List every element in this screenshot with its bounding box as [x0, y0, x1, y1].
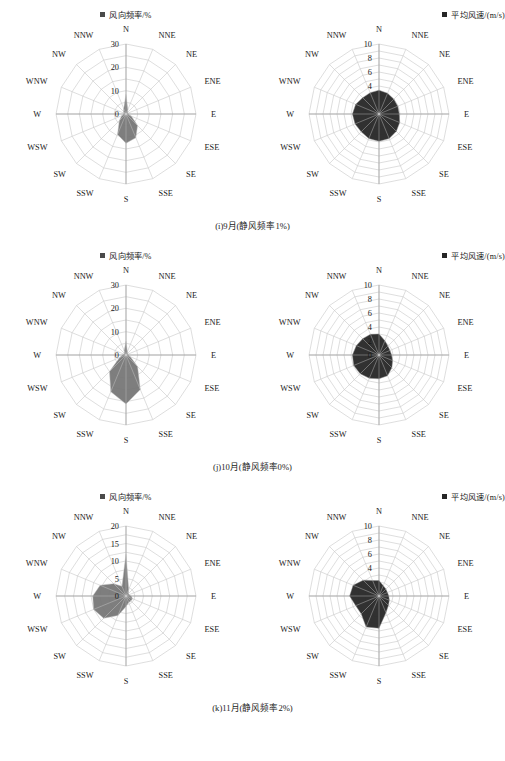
svg-text:SE: SE [439, 411, 449, 420]
svg-text:WNW: WNW [279, 559, 301, 568]
svg-text:5: 5 [115, 575, 119, 584]
svg-text:SSE: SSE [159, 671, 173, 680]
svg-text:S: S [124, 195, 129, 204]
svg-text:E: E [211, 110, 216, 119]
svg-text:N: N [376, 25, 382, 34]
svg-text:NNE: NNE [412, 31, 429, 40]
svg-text:NNE: NNE [412, 272, 429, 281]
svg-text:NNE: NNE [159, 31, 176, 40]
svg-text:NNE: NNE [159, 272, 176, 281]
chart-i-frequency: 0102030NNNENEENEEESESESSESSSWSWWSWWWNWNW… [0, 18, 252, 214]
svg-text:SE: SE [439, 652, 449, 661]
svg-text:SSE: SSE [412, 430, 426, 439]
svg-text:SSW: SSW [76, 671, 93, 680]
figure-row-k: 风向频率/% 05101520NNNENEENEEESESESSESSSWSWW… [0, 482, 505, 723]
svg-text:NNW: NNW [74, 513, 94, 522]
svg-text:SE: SE [186, 652, 196, 661]
svg-text:NW: NW [52, 532, 66, 541]
svg-text:SSW: SSW [329, 671, 346, 680]
svg-text:SW: SW [53, 411, 66, 420]
svg-text:S: S [124, 436, 129, 445]
svg-text:SSE: SSE [159, 189, 173, 198]
svg-text:SE: SE [439, 170, 449, 179]
svg-text:W: W [33, 351, 41, 360]
figure-row-j: 风向频率/% 0102030NNNENEENEEESESESSESSSWSWWS… [0, 241, 505, 482]
svg-text:6: 6 [368, 309, 372, 318]
svg-text:N: N [376, 507, 382, 516]
svg-text:N: N [376, 266, 382, 275]
legend-swatch-icon [100, 494, 105, 499]
chart-j-frequency: 0102030NNNENEENEEESESESSESSSWSWWSWWWNWNW… [0, 259, 252, 455]
svg-text:NW: NW [52, 291, 66, 300]
svg-text:SE: SE [186, 411, 196, 420]
svg-text:4: 4 [368, 564, 373, 573]
chart-j-speed: 0246810NNNENEENEEESESESSESSSWSWWSWWWNWNW… [253, 259, 505, 455]
svg-text:ENE: ENE [458, 559, 474, 568]
svg-text:ESE: ESE [205, 384, 220, 393]
svg-text:E: E [211, 592, 216, 601]
legend-swatch-icon [100, 253, 105, 258]
svg-text:ENE: ENE [205, 559, 221, 568]
svg-text:0: 0 [115, 351, 119, 360]
svg-text:SSW: SSW [76, 430, 93, 439]
svg-text:W: W [33, 592, 41, 601]
svg-text:SSW: SSW [329, 430, 346, 439]
svg-text:NW: NW [305, 532, 319, 541]
panel-j-frequency: 风向频率/% 0102030NNNENEENEEESESESSESSSWSWWS… [0, 241, 252, 456]
svg-text:NNW: NNW [327, 272, 347, 281]
svg-text:SW: SW [306, 652, 319, 661]
svg-text:ESE: ESE [205, 625, 220, 634]
svg-text:WSW: WSW [27, 384, 47, 393]
svg-text:S: S [377, 195, 382, 204]
svg-text:10: 10 [111, 328, 119, 337]
svg-text:ESE: ESE [458, 625, 473, 634]
svg-text:NE: NE [186, 50, 197, 59]
svg-text:10: 10 [364, 522, 372, 531]
svg-text:SW: SW [53, 652, 66, 661]
svg-text:WNW: WNW [279, 77, 301, 86]
svg-text:WNW: WNW [26, 318, 48, 327]
svg-text:W: W [286, 351, 294, 360]
svg-text:SSE: SSE [159, 430, 173, 439]
svg-text:WSW: WSW [280, 625, 300, 634]
svg-text:NE: NE [186, 532, 197, 541]
svg-text:SSE: SSE [412, 189, 426, 198]
svg-text:WSW: WSW [280, 143, 300, 152]
svg-text:ESE: ESE [458, 143, 473, 152]
svg-text:NNW: NNW [327, 31, 347, 40]
legend-swatch-icon [442, 253, 447, 258]
svg-text:SW: SW [306, 411, 319, 420]
svg-text:20: 20 [111, 304, 119, 313]
svg-text:S: S [377, 677, 382, 686]
svg-text:N: N [123, 507, 129, 516]
svg-text:8: 8 [368, 536, 372, 545]
chart-k-frequency: 05101520NNNENEENEEESESESSESSSWSWWSWWWNWN… [0, 500, 252, 696]
svg-text:0: 0 [115, 110, 119, 119]
svg-text:E: E [211, 351, 216, 360]
svg-text:E: E [464, 592, 469, 601]
svg-text:ENE: ENE [458, 77, 474, 86]
svg-text:WNW: WNW [26, 559, 48, 568]
svg-text:NNE: NNE [412, 513, 429, 522]
svg-text:10: 10 [364, 281, 372, 290]
svg-text:ENE: ENE [205, 318, 221, 327]
svg-text:N: N [123, 25, 129, 34]
svg-text:S: S [124, 677, 129, 686]
panel-j-speed: 平均风速/(m/s) 0246810NNNENEENEEESESESSESSSW… [253, 241, 505, 456]
figure-row-i: 风向频率/% 0102030NNNENEENEEESESESSESSSWSWWS… [0, 0, 505, 241]
svg-text:NNW: NNW [74, 31, 94, 40]
svg-text:WSW: WSW [280, 384, 300, 393]
panel-i-speed: 平均风速/(m/s) 46810NNNENEENEEESESESSESSSWSW… [253, 0, 505, 215]
svg-text:30: 30 [111, 40, 119, 49]
svg-text:SSW: SSW [76, 189, 93, 198]
svg-text:NNE: NNE [159, 513, 176, 522]
svg-text:SW: SW [306, 170, 319, 179]
svg-text:NE: NE [186, 291, 197, 300]
legend-swatch-icon [442, 12, 447, 17]
panel-i-frequency: 风向频率/% 0102030NNNENEENEEESESESSESSSWSWWS… [0, 0, 252, 215]
svg-text:8: 8 [368, 295, 372, 304]
chart-i-speed: 46810NNNENEENEEESESESSESSSWSWWSWWWNWNWNN… [253, 18, 505, 214]
svg-text:WNW: WNW [26, 77, 48, 86]
caption-j: (j)10月(静风频率0%) [0, 460, 505, 472]
caption-k: (k)11月(静风频率2%) [0, 701, 505, 713]
